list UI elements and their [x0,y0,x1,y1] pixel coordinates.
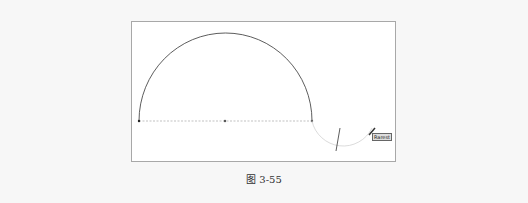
cursor-tooltip: Rarest [372,133,392,141]
radius-indicator-line [336,128,340,151]
figure-caption: 图 3-55 [0,171,528,186]
arc-start-point [138,120,140,122]
preview-arc [312,121,372,146]
semicircle-arc [139,33,312,121]
arc-center-point [224,120,226,122]
